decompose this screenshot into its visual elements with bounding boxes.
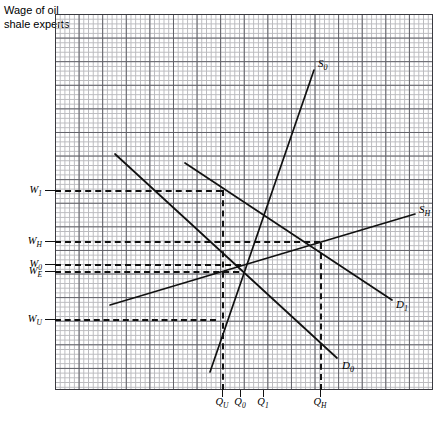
x-tick-mark-q0 [240, 390, 241, 397]
reference-line-w0 [55, 264, 241, 266]
reference-line-qh [320, 243, 322, 390]
reference-line-wu [55, 319, 216, 321]
reference-line-we [55, 271, 239, 273]
curve-label-s0: S0 [318, 57, 328, 72]
curve-d1 [185, 163, 392, 300]
y-tick-label-wu: WU [4, 313, 42, 327]
x-tick-label-qh: QH [306, 396, 334, 410]
x-tick-mark-qu [222, 390, 223, 397]
y-tick-mark-wu [45, 319, 55, 320]
y-tick-mark-we [45, 271, 55, 272]
reference-line-qu [222, 190, 224, 390]
y-tick-mark-wh [45, 241, 55, 242]
y-tick-label-wh: WH [4, 235, 42, 249]
curves-layer [55, 14, 433, 390]
y-tick-label-we: WE [4, 265, 42, 279]
curve-label-d0: D0 [342, 359, 354, 374]
y-tick-label-w1: W1 [4, 184, 42, 198]
reference-line-w1 [55, 190, 222, 192]
curve-label-d1: D1 [396, 298, 408, 313]
curve-sH [110, 214, 415, 305]
curve-label-sh: SH [419, 203, 430, 218]
y-tick-mark-w0 [45, 264, 55, 265]
y-tick-mark-w1 [45, 190, 55, 191]
x-tick-mark-qh [320, 390, 321, 397]
curve-s0 [210, 70, 314, 372]
x-tick-mark-q1 [263, 390, 264, 397]
reference-line-wh [55, 241, 320, 243]
x-tick-label-q1: Q1 [249, 396, 277, 410]
plot-area [55, 14, 433, 390]
